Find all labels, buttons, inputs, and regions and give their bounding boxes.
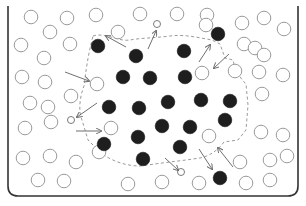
open-particle [14,38,28,52]
open-particle [43,149,57,163]
open-particle [233,155,247,169]
open-particle [228,64,242,78]
filled-particle [136,152,150,166]
filled-particle [132,101,146,115]
open-particle [133,7,147,21]
filled-particle [218,113,232,127]
open-particle [111,25,125,39]
filled-particle [97,137,111,151]
filled-particles [91,27,237,185]
filled-particle [223,94,237,108]
open-particle [199,18,213,32]
open-particle [170,7,184,21]
arrow-icon [199,149,212,169]
filled-particle [116,70,130,84]
open-particle [280,149,294,163]
open-particle [57,174,71,188]
arrow-icon [77,103,97,117]
open-particle [41,100,55,114]
open-particle [276,68,290,82]
small-open-particle [178,169,185,176]
open-particle [195,66,209,80]
open-particle [257,11,271,25]
filled-particle [194,93,208,107]
open-particle [16,151,30,165]
open-particle [257,48,271,62]
filled-particle [161,95,175,109]
open-particle [63,37,77,51]
open-particle [192,176,206,190]
open-particle [15,70,29,84]
small-open-particle [68,117,75,124]
open-particle [43,25,57,39]
open-particle [64,89,78,103]
open-particle [23,96,37,110]
open-particle [202,129,216,143]
filled-particle [177,44,191,58]
open-particle [38,75,52,89]
small-open-particle [154,21,161,28]
filled-particle [213,171,227,185]
open-particle [31,173,45,187]
open-particle [18,121,32,135]
filled-particle [91,39,105,53]
arrow-icon [214,54,229,68]
arrow-icon [165,158,178,170]
open-particle [239,176,253,190]
open-particle [121,177,135,191]
filled-particle [102,100,116,114]
open-particle [263,173,277,187]
open-particle [104,121,118,135]
open-particle [155,175,169,189]
arrow-icon [148,31,156,49]
filled-particle [155,119,169,133]
open-particle [44,115,58,129]
open-particle [69,155,83,169]
open-particle [24,10,38,24]
open-particle [89,8,103,22]
filled-particle [211,27,225,41]
filled-particle [143,71,157,85]
filled-particle [178,70,192,84]
open-particle [254,125,268,139]
open-particle [90,77,104,91]
open-particle [263,153,277,167]
filled-particle [173,140,187,154]
open-particle [277,22,291,36]
arrow-icon [199,45,210,62]
arrow-icon [218,148,233,167]
filled-particle [129,49,143,63]
open-particle [60,11,74,25]
open-particle [37,51,51,65]
filled-particle [183,120,197,134]
open-particle [252,65,266,79]
particle-diagram [0,0,306,206]
filled-particle [131,130,145,144]
open-particle [235,16,249,30]
open-particle [255,87,269,101]
open-particle [276,128,290,142]
